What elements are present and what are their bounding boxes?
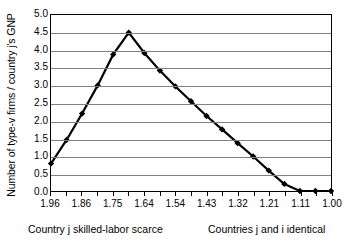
y-tick-label: 0.5 [22, 169, 48, 179]
x-tick-mark [160, 192, 161, 196]
x-tick-mark [238, 192, 239, 196]
y-tick-label: 3.0 [22, 80, 48, 90]
y-tick-label: 0.0 [22, 187, 48, 197]
x-tick-mark [332, 192, 333, 196]
gridline [51, 86, 331, 87]
x-tick-mark [50, 192, 51, 196]
x-axis-ticks [50, 192, 332, 197]
plot-area [50, 14, 332, 192]
x-tick-mark [128, 192, 129, 196]
x-tick-label: 1.00 [312, 198, 347, 210]
y-tick-label: 4.5 [22, 27, 48, 37]
gridline [51, 122, 331, 123]
y-axis-tick-labels: 5.04.54.03.53.02.52.01.51.00.50.0 [22, 14, 48, 192]
caption-left: Country j skilled-labor scarce [28, 223, 163, 236]
x-tick-mark [222, 192, 223, 196]
x-tick-mark [81, 192, 82, 196]
gridline [51, 175, 331, 176]
x-tick-mark [254, 192, 255, 196]
x-tick-mark [66, 192, 67, 196]
series-line [51, 33, 331, 191]
gridline [51, 33, 331, 34]
y-tick-label: 5.0 [22, 9, 48, 19]
x-axis-tick-labels: 1.961.861.751.641.541.431.321.211.111.00 [50, 198, 332, 212]
x-tick-mark [285, 192, 286, 196]
x-tick-mark [97, 192, 98, 196]
gridline [51, 157, 331, 158]
plot-inner [51, 15, 331, 191]
y-tick-label: 1.5 [22, 134, 48, 144]
data-series-line [51, 15, 331, 191]
y-tick-label: 3.5 [22, 62, 48, 72]
x-tick-mark [191, 192, 192, 196]
gridline [51, 104, 331, 105]
x-tick-mark [301, 192, 302, 196]
y-axis-title: Number of type-v firms / country j's GNP [2, 5, 20, 205]
x-tick-mark [207, 192, 208, 196]
x-tick-mark [144, 192, 145, 196]
gridline [51, 140, 331, 141]
y-tick-label: 4.0 [22, 45, 48, 55]
gridline [51, 51, 331, 52]
y-tick-label: 2.5 [22, 98, 48, 108]
y-tick-label: 2.0 [22, 116, 48, 126]
x-tick-mark [269, 192, 270, 196]
gridline [51, 68, 331, 69]
y-tick-label: 1.0 [22, 151, 48, 161]
caption-right: Countries j and i identical [208, 223, 325, 236]
x-tick-mark [175, 192, 176, 196]
x-tick-mark [113, 192, 114, 196]
x-tick-mark [316, 192, 317, 196]
